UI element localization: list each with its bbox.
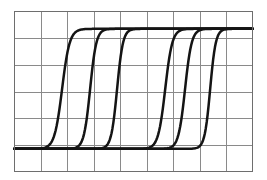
plot-svg [0,0,267,180]
figure-root [0,0,267,180]
